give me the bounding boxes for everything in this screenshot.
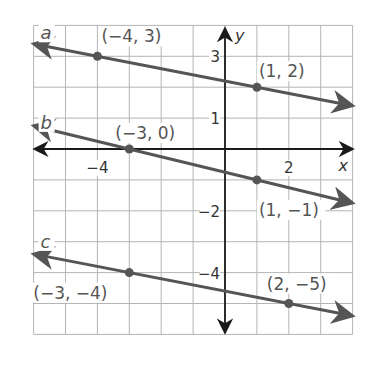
x-tick-label: −4 [86,159,108,177]
line-name-a: a [41,22,52,43]
point-a [93,52,102,61]
graph-svg: xy−4231−2−4(−4, 3)(1, 2)a(−3, 0)(1, −1)b… [0,0,372,372]
point-label-c: (−3, −4) [33,283,107,303]
point-label-a: (1, 2) [259,61,305,81]
x-axis-label: x [338,156,349,175]
point-label-a: (−4, 3) [101,26,161,46]
y-tick-label: −4 [198,265,220,283]
point-c [125,268,134,277]
coordinate-graph: xy−4231−2−4(−4, 3)(1, 2)a(−3, 0)(1, −1)b… [0,0,372,372]
point-label-b: (−3, 0) [115,123,175,143]
y-tick-label: 1 [210,110,220,128]
y-axis-label: y [234,26,245,45]
point-a [252,83,261,92]
point-label-c: (2, −5) [267,274,327,294]
point-b [125,145,134,154]
line-name-b: b [41,112,52,133]
line-name-c: c [41,231,51,252]
point-b [252,175,261,184]
x-tick-label: 2 [284,159,294,177]
point-c [284,299,293,308]
y-tick-label: 3 [210,48,220,66]
point-label-b: (1, −1) [259,200,319,220]
y-tick-label: −2 [198,203,220,221]
